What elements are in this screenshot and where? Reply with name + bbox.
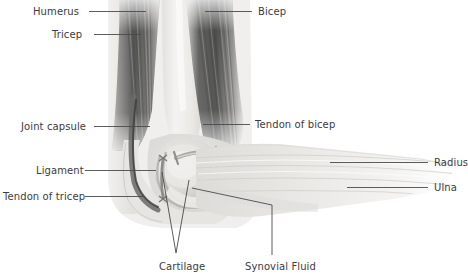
label-ligament: Ligament [36,165,84,176]
label-bicep: Bicep [258,6,286,17]
label-radius: Radius [434,157,468,168]
label-cartilage: Cartilage [159,261,205,272]
label-humerus: Humerus [33,6,79,17]
label-tendon-of-tricep: Tendon of tricep [3,191,85,202]
label-synovial-fluid: Synovial Fluid [245,261,316,272]
anatomy-diagram: Humerus Tricep Joint capsule Ligament Te… [0,0,468,278]
label-tricep: Tricep [52,29,82,40]
label-joint-capsule: Joint capsule [21,121,86,132]
forearm [196,144,458,217]
anatomy-illustration [0,0,468,278]
label-tendon-of-bicep: Tendon of bicep [255,119,335,130]
label-ulna: Ulna [434,182,457,193]
